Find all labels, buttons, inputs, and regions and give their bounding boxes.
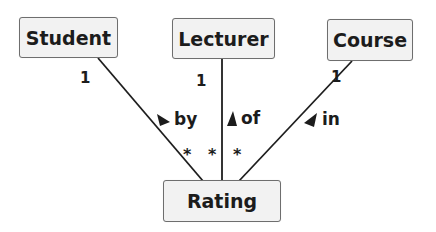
arrow-up-icon <box>226 110 238 127</box>
role-in: in <box>303 111 340 128</box>
course-multiplicity: 1 <box>331 70 341 85</box>
entity-course[interactable]: Course <box>327 19 413 61</box>
entity-lecturer[interactable]: Lecturer <box>172 18 275 59</box>
arrow-down-right-icon <box>155 112 171 128</box>
course-rating-multiplicity: * <box>233 147 241 163</box>
role-by: by <box>155 111 197 128</box>
lecturer-multiplicity: 1 <box>196 74 206 89</box>
student-multiplicity: 1 <box>80 71 90 86</box>
student-rating-multiplicity: * <box>183 147 191 163</box>
entity-student-label: Student <box>26 27 111 49</box>
role-of-label: of <box>241 110 260 127</box>
entity-lecturer-label: Lecturer <box>178 28 269 50</box>
lecturer-rating-multiplicity: * <box>208 147 216 163</box>
entity-rating-label: Rating <box>187 190 257 212</box>
role-in-label: in <box>322 111 340 128</box>
role-by-label: by <box>174 111 197 128</box>
uml-diagram: Student Lecturer Course Rating 1 1 1 by … <box>0 0 436 232</box>
entity-course-label: Course <box>333 29 407 51</box>
entity-student[interactable]: Student <box>19 17 118 58</box>
entity-rating[interactable]: Rating <box>163 180 281 222</box>
role-of: of <box>226 110 260 127</box>
arrow-down-left-icon <box>303 112 319 128</box>
